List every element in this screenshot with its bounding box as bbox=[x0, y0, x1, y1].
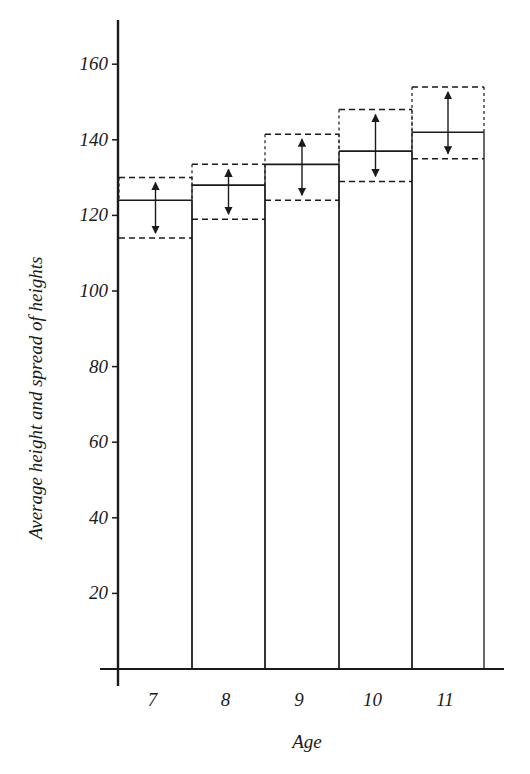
y-tick-label: 140 bbox=[80, 129, 109, 150]
y-tick-label: 120 bbox=[80, 204, 109, 225]
bar-group bbox=[265, 134, 339, 669]
x-axis: 7891011 bbox=[100, 669, 504, 710]
y-tick-label: 20 bbox=[89, 582, 109, 603]
x-tick-label: 8 bbox=[221, 689, 231, 710]
bar-group bbox=[412, 87, 484, 669]
y-tick-label: 160 bbox=[80, 53, 109, 74]
x-tick-label: 7 bbox=[148, 689, 159, 710]
y-tick-label: 80 bbox=[89, 356, 109, 377]
x-tick-label: 10 bbox=[363, 689, 383, 710]
y-tick-label: 60 bbox=[89, 431, 109, 452]
plot-area bbox=[119, 87, 484, 669]
x-tick-label: 11 bbox=[436, 689, 454, 710]
x-tick-label: 9 bbox=[294, 689, 304, 710]
x-axis-title: Age bbox=[290, 731, 322, 752]
bar-group bbox=[339, 110, 412, 669]
y-axis-title: Average height and spread of heights bbox=[25, 257, 46, 542]
y-axis: 20406080100120140160 bbox=[80, 20, 119, 686]
bar-group bbox=[119, 178, 192, 669]
y-tick-label: 40 bbox=[89, 507, 109, 528]
y-tick-label: 100 bbox=[80, 280, 109, 301]
bar-chart: 20406080100120140160 7891011 Average hei… bbox=[0, 0, 530, 774]
bar-group bbox=[192, 164, 265, 669]
